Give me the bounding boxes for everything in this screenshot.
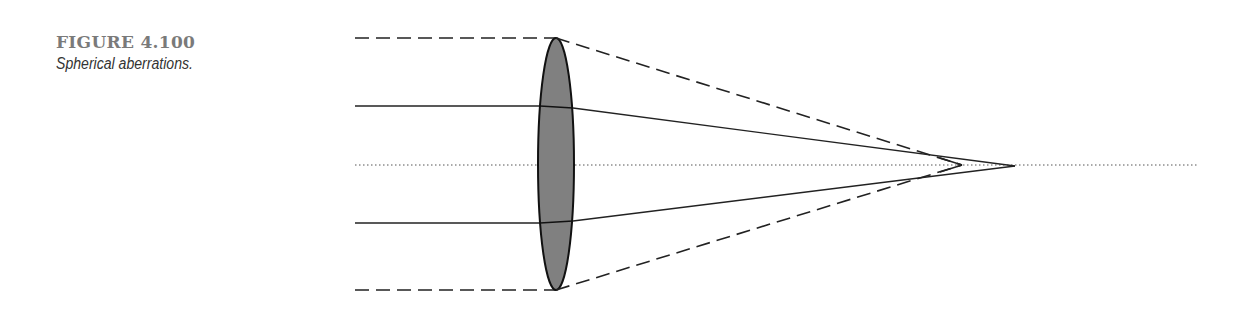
marginal-ray-bottom-refracted: [556, 165, 962, 290]
marginal-ray-top-refracted: [556, 38, 962, 165]
paraxial-ray-bottom-refracted: [573, 166, 1015, 221]
spherical-aberration-diagram: [0, 0, 1244, 312]
paraxial-ray-top-refracted: [573, 108, 1015, 166]
lens: [538, 38, 574, 290]
